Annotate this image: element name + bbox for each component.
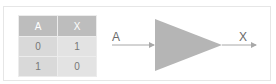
- gate-diagram: A X: [0, 0, 276, 84]
- output-label: X: [239, 30, 247, 44]
- input-label: A: [112, 30, 120, 44]
- gate-triangle-icon: [155, 19, 222, 71]
